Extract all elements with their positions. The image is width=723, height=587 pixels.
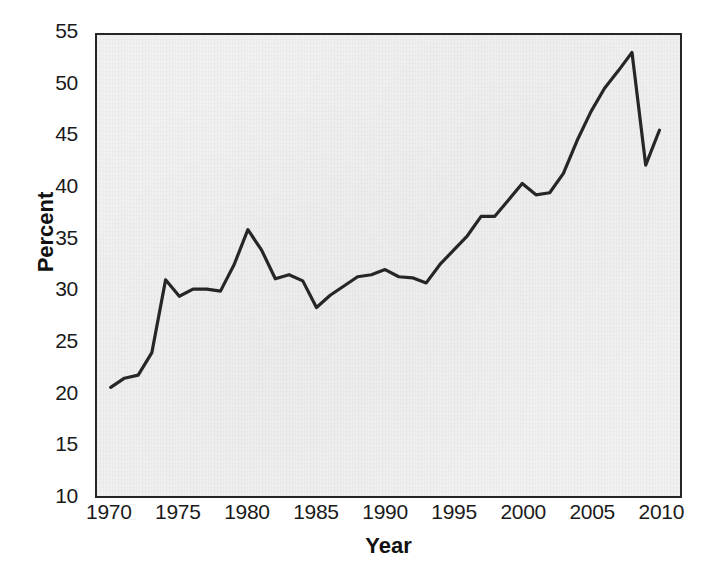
x-tick-label: 1985 [276, 500, 356, 524]
y-tick-label: 45 [30, 122, 78, 146]
y-tick-label: 25 [30, 329, 78, 353]
x-tick-label: 2010 [621, 500, 701, 524]
x-tick-label: 2005 [552, 500, 632, 524]
percent-line-series [111, 52, 660, 387]
y-tick-label: 20 [30, 381, 78, 405]
y-axis-title: Percent [33, 152, 59, 312]
x-tick-label: 1990 [345, 500, 425, 524]
y-tick-label: 15 [30, 432, 78, 456]
x-tick-label: 1970 [69, 500, 149, 524]
x-tick-label: 1995 [414, 500, 494, 524]
line-series-svg [97, 35, 680, 496]
x-tick-label: 1975 [138, 500, 218, 524]
x-tick-label: 1980 [207, 500, 287, 524]
plot-area [95, 33, 682, 498]
y-tick-label: 50 [30, 71, 78, 95]
x-tick-label: 2000 [483, 500, 563, 524]
chart-figure: 10152025303540455055 1970197519801985199… [0, 0, 723, 587]
x-axis-title: Year [95, 533, 682, 559]
y-tick-label: 55 [30, 19, 78, 43]
